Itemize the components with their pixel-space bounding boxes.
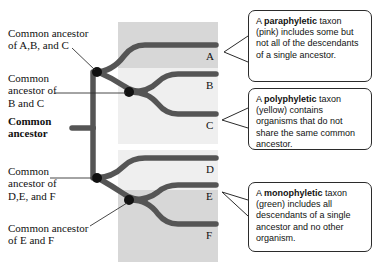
branch-to-C [131, 92, 216, 114]
callout-paraphyletic-lead: A [256, 16, 264, 26]
callout-paraphyletic-term: paraphyletic [264, 16, 317, 26]
taxon-letter-C: C [206, 119, 213, 131]
callout-monophyletic-term: monophyletic [264, 188, 323, 198]
callout-polyphyletic: A polyphyletic taxon (yellow) contains o… [248, 88, 372, 150]
callout-monophyletic-lead: A [256, 188, 264, 198]
node-dot-ancestor-def [92, 173, 102, 183]
branch-to-B [131, 74, 216, 92]
label-common-ancestor: Common ancestor [8, 115, 78, 140]
label-ancestor-def: Common ancestor of D,E, and F [8, 165, 82, 202]
label-ancestor-ef: Common ancestor of E and F [8, 222, 118, 247]
taxon-letter-F: F [206, 229, 212, 241]
taxon-letter-A: A [206, 50, 214, 62]
branch-to-F [131, 200, 216, 224]
branch-to-E [131, 185, 216, 200]
taxon-letter-B: B [206, 79, 213, 91]
phylogenetic-tree-figure: Common ancestor of A,B, and C Common anc… [0, 0, 379, 274]
branch-to-D [95, 158, 216, 178]
label-ancestor-abc: Common ancestor of A,B, and C [8, 27, 114, 52]
callout-tail-monophyletic [222, 192, 248, 216]
callout-tail-paraphyletic [224, 36, 248, 62]
callout-polyphyletic-lead: A [256, 94, 264, 104]
taxon-letter-D: D [206, 163, 214, 175]
label-ancestor-bc: Common ancestor of B and C [8, 72, 78, 109]
callout-tail-polyphyletic [222, 108, 248, 128]
taxon-letter-E: E [206, 190, 213, 202]
callout-monophyletic: A monophyletic taxon (green) includes al… [248, 182, 372, 252]
branch-def-to-ef [98, 178, 145, 200]
callout-polyphyletic-term: polyphyletic [264, 94, 317, 104]
callout-paraphyletic: A paraphyletic taxon (pink) includes som… [248, 10, 372, 82]
node-dot-ancestor-bc [124, 87, 134, 97]
